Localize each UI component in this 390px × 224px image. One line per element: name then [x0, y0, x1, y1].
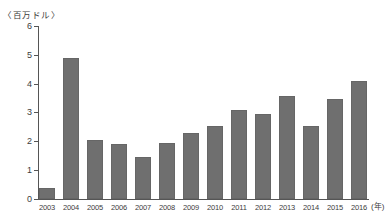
y-axis-tick [34, 112, 38, 113]
x-axis-label-2004: 2004 [59, 203, 83, 212]
bar-2006 [111, 144, 127, 199]
y-axis-tick-label: 1 [12, 166, 32, 175]
x-axis-year-suffix: (年) [371, 202, 384, 211]
bar-2005 [87, 140, 103, 199]
x-axis-label-2006: 2006 [107, 203, 131, 212]
y-axis-tick [34, 199, 38, 200]
y-axis-line [38, 26, 39, 200]
bar-2011 [231, 110, 247, 199]
bar-2013 [279, 96, 295, 199]
y-axis-tick-label: 2 [12, 137, 32, 146]
x-axis-label-2012: 2012 [251, 203, 275, 212]
bar-2009 [183, 133, 199, 199]
bar-2010 [207, 126, 223, 199]
x-axis-label-2007: 2007 [131, 203, 155, 212]
x-axis-label-2014: 2014 [299, 203, 323, 212]
y-axis-tick-label: 6 [12, 22, 32, 31]
y-axis-tick-label: 4 [12, 80, 32, 89]
y-axis-tick [34, 55, 38, 56]
bar-2016 [351, 81, 367, 199]
x-axis-label-2008: 2008 [155, 203, 179, 212]
bar-2015 [327, 99, 343, 199]
bar-chart: 〈百万ドル〉 012345620032004200520062007200820… [0, 0, 390, 224]
x-axis-label-2003: 2003 [35, 203, 59, 212]
y-axis-tick [34, 84, 38, 85]
bar-2007 [135, 157, 151, 199]
bar-2012 [255, 114, 271, 199]
y-axis-tick [34, 170, 38, 171]
x-axis-label-2016: 2016 [347, 203, 371, 212]
x-axis-label-2009: 2009 [179, 203, 203, 212]
bar-2014 [303, 126, 319, 199]
x-axis-label-2005: 2005 [83, 203, 107, 212]
y-axis-tick [34, 141, 38, 142]
x-axis-label-2013: 2013 [275, 203, 299, 212]
x-axis-label-2011: 2011 [227, 203, 251, 212]
x-axis-label-2010: 2010 [203, 203, 227, 212]
bar-2004 [63, 58, 79, 199]
x-axis-line [38, 199, 369, 200]
y-axis-unit-label: 〈百万ドル〉 [3, 8, 60, 20]
y-axis-tick-label: 3 [12, 108, 32, 117]
y-axis-tick [34, 26, 38, 27]
bar-2008 [159, 143, 175, 199]
bar-2003 [39, 188, 55, 199]
y-axis-tick-label: 5 [12, 51, 32, 60]
y-axis-tick-label: 0 [12, 195, 32, 204]
x-axis-label-2015: 2015 [323, 203, 347, 212]
